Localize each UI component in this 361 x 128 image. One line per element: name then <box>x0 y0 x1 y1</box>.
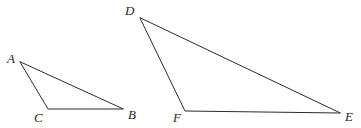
vertex-label-b: B <box>128 108 136 121</box>
vertex-label-e: E <box>345 110 353 123</box>
vertex-label-c: C <box>34 111 43 124</box>
triangle-abc-outline <box>20 62 123 109</box>
triangle-def-outline <box>140 18 340 113</box>
vertex-label-d: D <box>125 4 134 17</box>
geometry-canvas <box>0 0 361 128</box>
vertex-label-a: A <box>7 52 15 65</box>
geometry-figure: A C B D F E <box>0 0 361 128</box>
vertex-label-f: F <box>173 111 181 124</box>
